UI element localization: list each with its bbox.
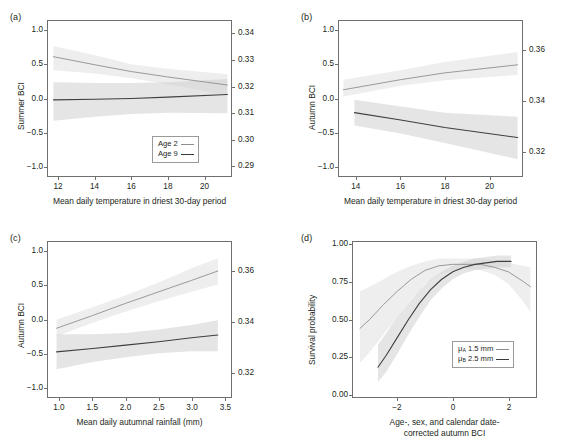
y-tick-mark-right xyxy=(232,87,235,88)
x-tick-mark xyxy=(225,398,226,401)
x-tick-mark xyxy=(58,177,59,180)
x-tick-mark xyxy=(192,398,193,401)
y-tick-label: 0.0 xyxy=(307,94,334,103)
y-tick-mark xyxy=(44,64,47,65)
y-tick-label-right: 0.32 xyxy=(529,147,559,156)
panel-d-legend: μA 1.5 mm μB 2.5 mm xyxy=(452,341,514,368)
y-tick-mark xyxy=(44,320,47,321)
x-tick-label: 18 xyxy=(429,182,461,191)
y-tick-label: −0.5 xyxy=(16,349,43,358)
x-tick-label: 20 xyxy=(189,182,221,191)
panel-c-xlabel: Mean daily autumnal rainfall (mm) xyxy=(32,417,247,428)
y-tick-mark-right xyxy=(232,140,235,141)
y-tick-mark-right xyxy=(232,322,235,323)
x-tick-label: 2.0 xyxy=(110,403,142,412)
y-tick-label: 0.5 xyxy=(307,59,334,68)
x-tick-mark xyxy=(159,398,160,401)
panel-b-xlabel: Mean daily temperature in driest 30-day … xyxy=(323,196,538,207)
y-tick-mark xyxy=(349,395,352,396)
legend-label-mu-b: μB 2.5 mm xyxy=(458,354,493,364)
x-tick-label: −2 xyxy=(381,403,413,412)
y-tick-label-right: 0.34 xyxy=(238,28,268,37)
y-tick-mark-right xyxy=(232,60,235,61)
x-tick-label: 16 xyxy=(115,182,147,191)
x-tick-mark xyxy=(453,398,454,401)
y-tick-label-right: 0.33 xyxy=(238,55,268,64)
y-tick-mark-right xyxy=(523,152,526,153)
y-tick-label-right: 0.34 xyxy=(238,317,268,326)
y-tick-mark xyxy=(335,99,338,100)
x-tick-label: 2 xyxy=(493,403,525,412)
x-tick-mark xyxy=(490,177,491,180)
y-tick-mark-right xyxy=(232,113,235,114)
panel-a-ylabel: Summer BCI xyxy=(16,82,26,130)
y-tick-mark xyxy=(44,354,47,355)
y-tick-label: 0.00 xyxy=(321,390,348,399)
y-tick-mark xyxy=(44,251,47,252)
x-tick-label: 20 xyxy=(474,182,506,191)
legend-line-icon-mu-a xyxy=(496,349,509,350)
y-tick-mark xyxy=(44,133,47,134)
y-tick-mark xyxy=(335,64,338,65)
y-tick-label: 1.0 xyxy=(16,25,43,34)
x-tick-label: 0 xyxy=(437,403,469,412)
y-tick-mark xyxy=(44,388,47,389)
x-tick-mark xyxy=(509,398,510,401)
panel-d-tag: (d) xyxy=(301,233,312,243)
panel-b-plot-area xyxy=(338,20,523,177)
y-tick-mark-right xyxy=(232,166,235,167)
y-tick-label: 0.0 xyxy=(16,315,43,324)
x-tick-label: 1.5 xyxy=(76,403,108,412)
y-tick-label: 0.75 xyxy=(321,277,348,286)
x-tick-mark xyxy=(445,177,446,180)
legend-item-age9: Age 9 xyxy=(158,149,194,159)
x-tick-label: 18 xyxy=(152,182,184,191)
y-tick-label-right: 0.36 xyxy=(238,266,268,275)
y-tick-label: −1.0 xyxy=(16,383,43,392)
x-tick-mark xyxy=(400,177,401,180)
y-tick-label: 0.5 xyxy=(16,280,43,289)
panel-a-xlabel: Mean daily temperature in driest 30-day … xyxy=(32,196,247,207)
x-tick-mark xyxy=(92,398,93,401)
x-tick-label: 16 xyxy=(384,182,416,191)
legend-line-icon-mu-b xyxy=(496,359,509,360)
y-tick-label-right: 0.29 xyxy=(238,161,268,170)
y-tick-label: −1.0 xyxy=(307,162,334,171)
x-tick-mark xyxy=(356,177,357,180)
y-tick-label: 0.50 xyxy=(321,315,348,324)
x-tick-label: 14 xyxy=(340,182,372,191)
y-tick-label-right: 0.32 xyxy=(238,368,268,377)
x-tick-label: 3.0 xyxy=(176,403,208,412)
x-tick-label: 1.0 xyxy=(43,403,75,412)
legend-label-mu-a: μA 1.5 mm xyxy=(458,344,493,354)
y-tick-label: 0.25 xyxy=(321,352,348,361)
y-tick-label: −0.5 xyxy=(16,128,43,137)
panel-b-tag: (b) xyxy=(301,12,312,22)
panel-c-plot-area xyxy=(47,241,232,398)
y-tick-mark-right xyxy=(523,50,526,51)
y-tick-mark-right xyxy=(232,33,235,34)
legend-item-mu-a: μA 1.5 mm xyxy=(458,344,509,354)
panel-a-tag: (a) xyxy=(10,12,21,22)
y-tick-mark xyxy=(44,285,47,286)
panel-b-ylabel: Autumn BCI xyxy=(307,85,317,130)
y-tick-label-right: 0.36 xyxy=(529,45,559,54)
y-tick-label-right: 0.32 xyxy=(238,82,268,91)
x-tick-mark xyxy=(397,398,398,401)
y-tick-mark-right xyxy=(232,373,235,374)
y-tick-mark xyxy=(349,244,352,245)
panel-c-tag: (c) xyxy=(10,233,21,243)
y-tick-mark xyxy=(349,357,352,358)
y-tick-label: 1.0 xyxy=(307,25,334,34)
panel-d-xlabel: Age-, sex, and calendar date- corrected … xyxy=(337,417,552,438)
legend-label-age9: Age 9 xyxy=(158,149,178,159)
panel-c-ylabel: Autumn BCI xyxy=(16,303,26,348)
panel-a-legend: Age 2 Age 9 xyxy=(152,136,199,163)
y-tick-mark xyxy=(335,167,338,168)
y-tick-mark xyxy=(44,99,47,100)
y-tick-label: 0.5 xyxy=(16,59,43,68)
x-tick-mark xyxy=(131,177,132,180)
x-tick-label: 2.5 xyxy=(143,403,175,412)
y-tick-label: −0.5 xyxy=(307,128,334,137)
y-tick-mark xyxy=(44,30,47,31)
